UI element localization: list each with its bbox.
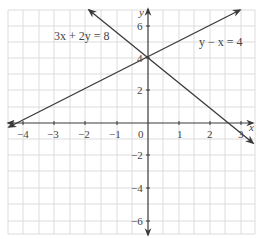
line-y-minus-x-eq-4 bbox=[9, 10, 240, 127]
x-axis-label: x bbox=[248, 121, 254, 133]
y-axis-label: y bbox=[138, 6, 144, 18]
x-tick-label: −1 bbox=[109, 128, 121, 140]
y-tick-label: 2 bbox=[137, 84, 143, 96]
x-tick-label: 1 bbox=[177, 128, 183, 140]
y-tick-label: −6 bbox=[131, 215, 143, 227]
y-tick-label: 4 bbox=[137, 52, 143, 64]
x-tick-label: −3 bbox=[47, 128, 59, 140]
equation-label-2: y − x = 4 bbox=[199, 35, 243, 49]
y-tick-label: −4 bbox=[131, 182, 143, 194]
y-tick-label: 6 bbox=[137, 20, 143, 32]
x-tick-label: −4 bbox=[17, 128, 29, 140]
x-tick-label: 0 bbox=[138, 128, 144, 140]
equation-label-1: 3x + 2y = 8 bbox=[54, 29, 110, 43]
x-tick-label: −2 bbox=[78, 128, 90, 140]
x-tick-label: 3 bbox=[238, 128, 244, 140]
y-tick-label: −2 bbox=[131, 149, 143, 161]
x-tick-label: 2 bbox=[207, 128, 213, 140]
coordinate-plane: −4 −3 −2 −1 0 1 2 3 6 4 2 −2 −4 −6 x y 3… bbox=[0, 0, 257, 239]
